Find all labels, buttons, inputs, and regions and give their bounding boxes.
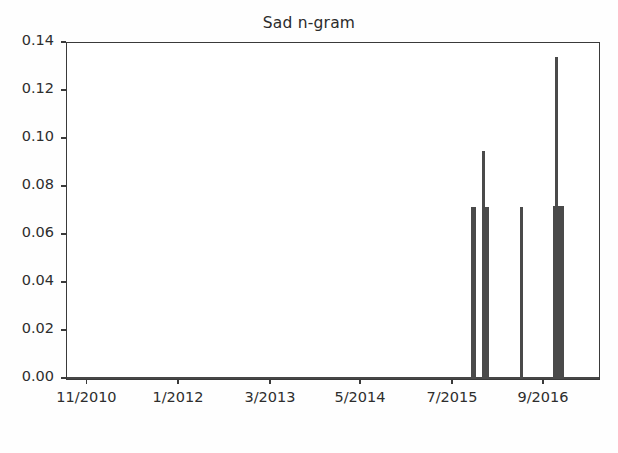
plot-inner (67, 43, 599, 379)
y-axis-tick-label: 0.02 (22, 320, 54, 336)
y-axis-tick-label: 0.14 (22, 32, 54, 48)
x-axis-tick-label: 9/2016 (493, 389, 593, 405)
y-axis-tick-label: 0.08 (22, 176, 54, 192)
x-axis-tick-label: 7/2015 (402, 389, 502, 405)
y-axis-tick-label: 0.00 (22, 368, 54, 384)
data-spike (520, 207, 523, 379)
plot-area (66, 42, 600, 380)
x-axis-tick-label: 1/2012 (128, 389, 228, 405)
y-axis-tick-label: 0.12 (22, 80, 54, 96)
x-axis-tick-label: 3/2013 (220, 389, 320, 405)
x-axis-tick-label: 5/2014 (310, 389, 410, 405)
y-axis-tick-label: 0.10 (22, 128, 54, 144)
y-axis-tick-label: 0.04 (22, 272, 54, 288)
chart-figure: Sad n-gram 0.000.020.040.060.080.100.120… (0, 0, 618, 453)
x-axis-tick-label: 11/2010 (36, 389, 136, 405)
data-spike (553, 206, 564, 379)
chart-title: Sad n-gram (0, 14, 618, 32)
y-axis-tick-label: 0.06 (22, 224, 54, 240)
data-spike (471, 207, 476, 379)
data-spike (484, 207, 489, 379)
